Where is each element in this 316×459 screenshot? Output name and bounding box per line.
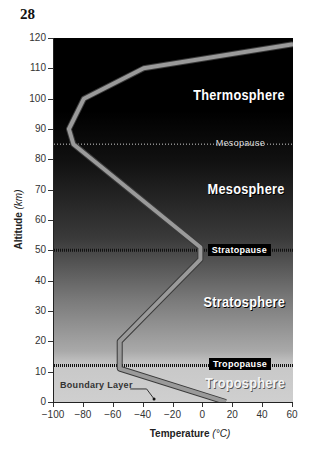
y-tick-label: 60 bbox=[20, 214, 46, 225]
y-tick-label: 40 bbox=[20, 275, 46, 286]
boundary-label-mesopause: Mesopause bbox=[212, 137, 269, 149]
boundary-label-tropopause: Tropopause bbox=[209, 358, 271, 370]
boundary-label-stratopause: Stratopause bbox=[208, 244, 271, 256]
page-number: 28 bbox=[20, 6, 35, 23]
layer-label-thermosphere: Thermosphere bbox=[193, 86, 285, 103]
annotation-dot bbox=[153, 397, 156, 400]
annotation-boundary-layer: Boundary Layer bbox=[60, 380, 133, 390]
y-tick-label: 0 bbox=[20, 396, 46, 407]
y-tick-label: 30 bbox=[20, 305, 46, 316]
y-axis-title: Altitude bbox=[13, 212, 24, 249]
y-tick-label: 10 bbox=[20, 366, 46, 377]
y-axis-label: Altitude (km) bbox=[13, 170, 24, 270]
layer-label-mesosphere: Mesosphere bbox=[208, 180, 285, 197]
layer-label-stratosphere: Stratosphere bbox=[203, 293, 285, 310]
y-tick-label: 80 bbox=[20, 153, 46, 164]
x-axis-label: Temperature (°C) bbox=[100, 428, 280, 439]
x-axis-unit: (°C) bbox=[212, 428, 230, 439]
y-tick-label: 70 bbox=[20, 184, 46, 195]
y-tick-label: 20 bbox=[20, 335, 46, 346]
x-tick-label: 60 bbox=[274, 409, 310, 420]
y-tick-label: 110 bbox=[20, 62, 46, 73]
y-tick-label: 90 bbox=[20, 123, 46, 134]
layer-label-troposphere: Troposphere bbox=[205, 374, 285, 391]
y-tick-label: 120 bbox=[20, 32, 46, 43]
y-tick-label: 100 bbox=[20, 93, 46, 104]
y-tick-label: 50 bbox=[20, 244, 46, 255]
y-axis-unit: (km) bbox=[13, 190, 24, 210]
plot-area: Thermosphere Mesosphere Stratosphere Tro… bbox=[53, 38, 293, 403]
annotation-leader-line bbox=[130, 389, 154, 399]
x-axis-title: Temperature bbox=[150, 428, 210, 439]
